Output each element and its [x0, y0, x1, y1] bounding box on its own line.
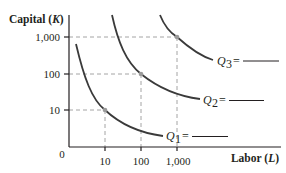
isoquant-chart: Capital (K) 1,000 100 10 0 10 100 1,000 …: [0, 0, 286, 173]
label-q3: Q 3 =: [217, 54, 279, 71]
reference-lines: [69, 37, 177, 147]
svg-text:3: 3: [226, 57, 232, 71]
isoquant-q2: [112, 15, 200, 99]
svg-text:Q: Q: [217, 54, 226, 68]
point-q1: [103, 108, 108, 113]
svg-text:1: 1: [175, 132, 181, 146]
label-q1: Q 1 =: [166, 129, 228, 146]
svg-text:=: =: [219, 93, 226, 107]
isoquant-q3: [160, 15, 213, 60]
y-tick-1000: 1,000: [35, 31, 60, 43]
point-q2: [139, 72, 144, 77]
svg-text:2: 2: [212, 96, 218, 110]
x-axis-label: Labor (L): [231, 152, 279, 165]
x-tick-10: 10: [100, 155, 112, 167]
isoquant-q1: [76, 44, 163, 136]
svg-text:=: =: [182, 129, 189, 143]
marked-points: [103, 35, 180, 113]
svg-text:Q: Q: [166, 129, 175, 143]
y-tick-10: 10: [49, 104, 61, 116]
point-q3: [175, 35, 180, 40]
label-q2: Q 2 =: [203, 93, 264, 110]
x-tick-1000: 1,000: [166, 155, 191, 167]
svg-text:Q: Q: [203, 93, 212, 107]
x-tick-100: 100: [133, 155, 150, 167]
y-tick-100: 100: [44, 68, 61, 80]
svg-text:=: =: [233, 54, 240, 68]
y-axis-label: Capital (K): [9, 13, 64, 26]
origin-label: 0: [59, 148, 65, 160]
